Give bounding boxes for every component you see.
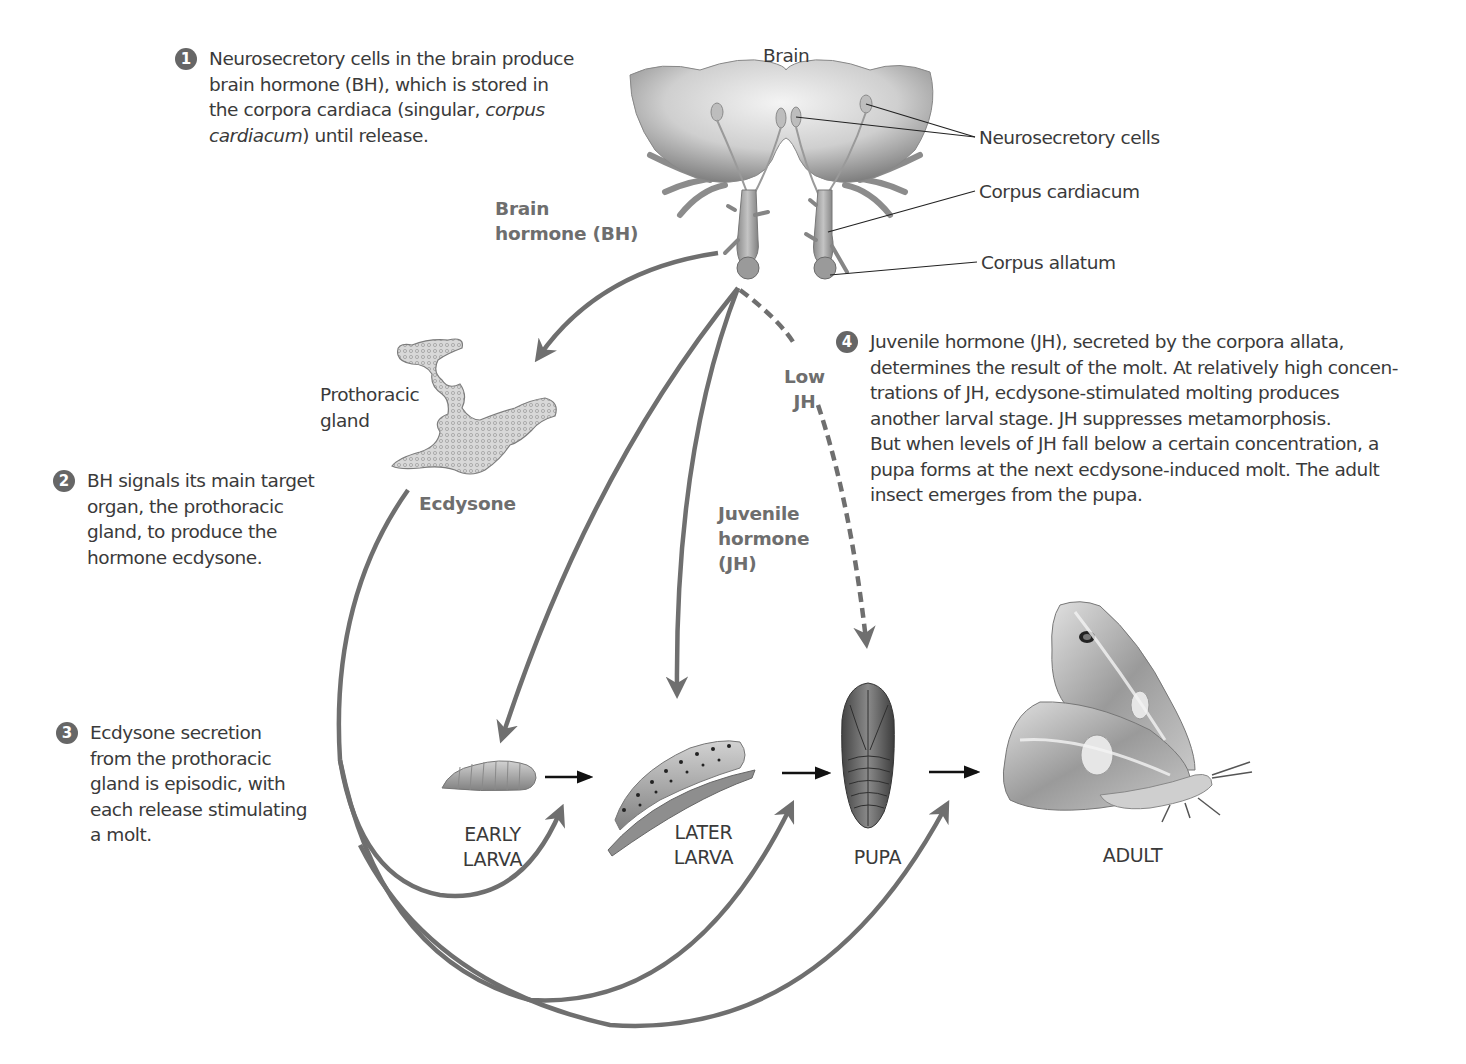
arrow-bh-to-gland [540,253,718,355]
step-2-line-1: BH signals its main target [87,468,314,494]
label-low-jh: Low JH [784,364,825,414]
stage-label-early-larva: EARLY LARVA [455,822,530,872]
label-bh-line-1: Brain [495,196,638,221]
stage-label-pupa: PUPA [840,845,915,870]
stage-later-larva-line-2: LARVA [666,845,741,870]
step-1-line-1: Neurosecretory cells in the brain produc… [209,46,574,72]
label-prothoracic-line-1: Prothoracic [320,382,419,408]
label-jh-line-2: hormone [718,526,809,551]
arrow-low-jh-to-pupa [740,290,795,345]
label-brain: Brain [763,43,809,69]
step-3-line-3: gland is episodic, with [90,771,307,797]
step-2-line-4: hormone ecdysone. [87,545,314,571]
label-prothoracic-line-2: gland [320,408,419,434]
arrow-ecdysone-to-adult [360,808,945,1026]
step-3-line-2: from the prothoracic [90,746,307,772]
adult-moth-illustration [1003,602,1252,822]
arrow-ecdysone-to-later-larva [340,760,790,1000]
stage-early-larva-line-2: LARVA [455,847,530,872]
step-1-line-3: the corpora cardiaca (singular, [209,99,485,120]
step-2-line-2: organ, the prothoracic [87,494,314,520]
step-1-line-4: ) until release. [302,125,428,146]
label-jh-line-3: (JH) [718,551,809,576]
stage-label-adult: ADULT [1090,843,1175,868]
step-1-badge: 1 [175,48,197,70]
early-larva-illustration [442,761,536,791]
step-4-line-4: another larval stage. JH suppresses meta… [870,406,1398,432]
step-1-italic-corpus: corpus [485,99,545,120]
step-3-line-5: a molt. [90,822,307,848]
step-4-line-7: insect emerges from the pupa. [870,482,1398,508]
label-juvenile-hormone: Juvenile hormone (JH) [718,501,809,576]
step-3-line-4: each release stimulating [90,797,307,823]
stage-later-larva-line-1: LATER [666,820,741,845]
arrow-jh-to-early-larva [503,288,738,735]
step-4-line-2: determines the result of the molt. At re… [870,355,1398,381]
stage-early-larva-line-1: EARLY [455,822,530,847]
step-3-badge: 3 [56,722,78,744]
label-low-jh-line-1: Low [784,364,825,389]
label-bh-line-2: hormone (BH) [495,221,638,246]
step-2-badge: 2 [53,470,75,492]
step-2-line-3: gland, to produce the [87,519,314,545]
step-4-badge: 4 [836,331,858,353]
step-4-line-3: trations of JH, ecdysone-stimulated molt… [870,380,1398,406]
step-3-line-1: Ecdysone secretion [90,720,307,746]
step-1-line-2: brain hormone (BH), which is stored in [209,72,574,98]
step-1-italic-cardiacum: cardiacum [209,125,302,146]
label-brain-hormone: Brain hormone (BH) [495,196,638,246]
label-prothoracic-gland: Prothoracic gland [320,382,419,433]
stage-transition-arrows [545,772,977,777]
step-4-line-6: pupa forms at the next ecdysone-induced … [870,457,1398,483]
arrow-jh-to-later-larva [677,288,738,690]
label-ecdysone: Ecdysone [419,491,516,516]
step-4-line-1: Juvenile hormone (JH), secreted by the c… [870,329,1398,355]
label-jh-line-1: Juvenile [718,501,809,526]
label-corpus-allatum: Corpus allatum [981,250,1115,276]
stage-label-later-larva: LATER LARVA [666,820,741,870]
step-4-line-5: But when levels of JH fall below a certa… [870,431,1398,457]
pupa-illustration [842,683,895,828]
label-neurosecretory-cells: Neurosecretory cells [979,125,1160,151]
label-corpus-cardiacum: Corpus cardiacum [979,179,1140,205]
label-low-jh-line-2: JH [784,389,825,414]
brain-illustration [630,60,933,279]
